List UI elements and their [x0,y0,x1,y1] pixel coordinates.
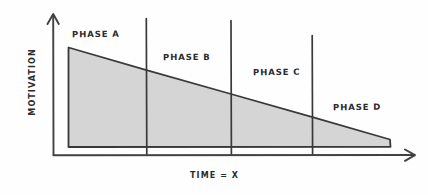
chart-canvas: PHASE A PHASE B PHASE C PHASE D MOTIVATI… [0,0,428,195]
y-axis-label: MOTIVATION [29,45,37,119]
phase-c-label: PHASE C [253,68,300,77]
x-axis-label: TIME = X [190,172,239,180]
paper-texture-overlay [0,0,428,195]
phase-b-label: PHASE B [163,53,211,62]
phase-d-label: PHASE D [333,103,381,112]
phase-a-label: PHASE A [72,30,120,39]
motivation-time-chart [0,0,428,195]
